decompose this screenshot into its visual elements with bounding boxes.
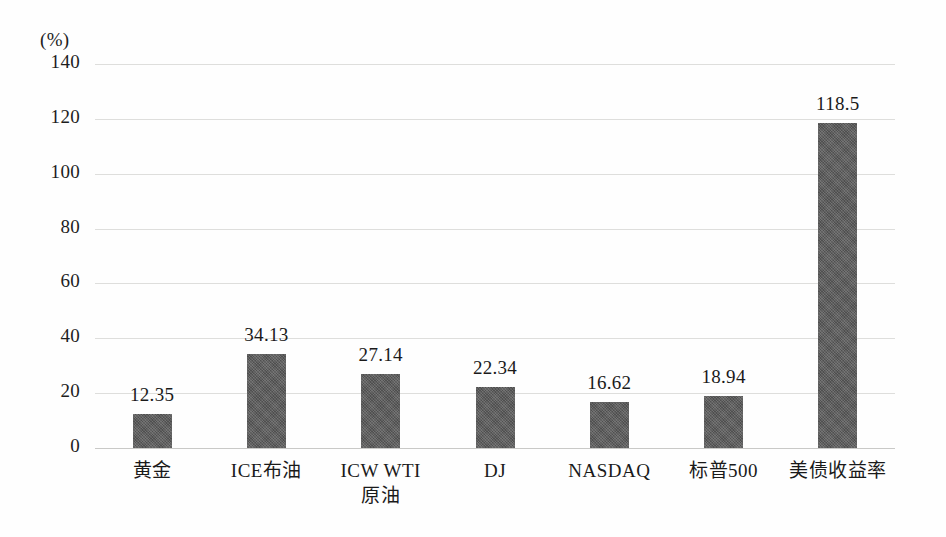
bar[interactable] <box>247 354 286 448</box>
y-axis-tick-label: 20 <box>24 380 80 402</box>
bar-value-label: 16.62 <box>554 372 664 394</box>
y-axis-tick-label: 140 <box>24 51 80 73</box>
gridline <box>95 448 895 449</box>
y-axis-tick-label: 0 <box>24 435 80 457</box>
bar-value-label: 27.14 <box>326 344 436 366</box>
bar[interactable] <box>818 123 857 448</box>
bar-value-label: 118.5 <box>783 93 893 115</box>
plot-area <box>95 64 895 448</box>
bar[interactable] <box>476 387 515 448</box>
x-axis-category-label: ICE布油 <box>201 458 331 483</box>
y-axis-tick-label: 40 <box>24 325 80 347</box>
bar-value-label: 34.13 <box>211 324 321 346</box>
bar-value-label: 22.34 <box>440 357 550 379</box>
bar[interactable] <box>133 414 172 448</box>
bar[interactable] <box>590 402 629 448</box>
gridline <box>95 119 895 120</box>
gridline <box>95 64 895 65</box>
y-axis-tick-label: 80 <box>24 216 80 238</box>
gridline <box>95 174 895 175</box>
chart-canvas: (%) 140120100806040200 12.3534.1327.1422… <box>0 0 946 537</box>
bar-value-label: 12.35 <box>97 384 207 406</box>
x-axis-category-label-line: ICE布油 <box>231 460 302 481</box>
bar-value-label: 18.94 <box>669 366 779 388</box>
x-axis-category-label: 黄金 <box>87 458 217 483</box>
y-axis-tick-label: 60 <box>24 270 80 292</box>
gridline <box>95 283 895 284</box>
x-axis-category-label-line: 美债收益率 <box>789 460 887 481</box>
x-axis-category-label-line: ICW WTI <box>341 460 421 481</box>
x-axis-category-label: 美债收益率 <box>773 458 903 483</box>
bar[interactable] <box>361 374 400 448</box>
x-axis-category-label-line: NASDAQ <box>568 460 650 481</box>
y-axis-tick-label: 120 <box>24 106 80 128</box>
x-axis-category-label: NASDAQ <box>544 458 674 483</box>
x-axis-category-label: 标普500 <box>659 458 789 483</box>
x-axis-category-label: ICW WTI原油 <box>316 458 446 508</box>
gridline <box>95 229 895 230</box>
x-axis-category-label-line: 原油 <box>316 483 446 508</box>
x-axis-category-label-line: 黄金 <box>133 460 172 481</box>
x-axis-category-label-line: DJ <box>484 460 506 481</box>
y-axis-tick-label: 100 <box>24 161 80 183</box>
y-axis-unit-label: (%) <box>40 29 69 51</box>
x-axis-category-label: DJ <box>430 458 560 483</box>
bar[interactable] <box>704 396 743 448</box>
x-axis-category-label-line: 标普500 <box>689 460 758 481</box>
